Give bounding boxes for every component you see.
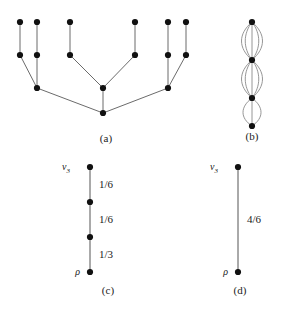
path-node-v3: [235, 164, 241, 170]
tree-node-leaf: [17, 19, 23, 25]
tree-node-leaf: [34, 19, 40, 25]
tree-node: [67, 52, 73, 58]
tree-node: [100, 85, 106, 91]
panel-b-multigraph: [212, 8, 292, 134]
caption-c: (c): [40, 284, 176, 296]
tree-node-leaf: [132, 19, 138, 25]
weighted-path-diagram-c: v3 ρ 1/6 1/6 1/3: [40, 155, 176, 285]
vertex-label-rho: ρ: [222, 266, 228, 277]
panel-a-tree: [0, 8, 212, 134]
tree-node: [165, 85, 171, 91]
tree-node: [17, 52, 23, 58]
multigraph-bundle-middle: [242, 60, 263, 98]
path-node-rho: [87, 269, 93, 275]
path-weight-labels-d: 4/6: [247, 213, 262, 225]
parallel-edge: [252, 22, 263, 60]
multigraph-node: [249, 123, 255, 129]
caption-d: (d): [188, 284, 292, 296]
tree-node: [34, 85, 40, 91]
path-weight-labels-c: 1/6 1/6 1/3: [99, 178, 114, 260]
path-node: [87, 234, 93, 240]
tree-edge: [20, 55, 37, 88]
edge-weight-label: 1/6: [99, 213, 114, 225]
parallel-edge: [252, 98, 261, 126]
tree-node-leaf: [67, 19, 73, 25]
vertex-label-v3: v3: [210, 161, 218, 175]
tree-edge: [37, 88, 103, 113]
path-vertex-labels-d: v3 ρ: [210, 161, 228, 277]
path-vertex-labels-c: v3 ρ: [62, 161, 80, 277]
edge-weight-label: 1/3: [99, 248, 114, 260]
vertex-label-rho: ρ: [74, 266, 80, 277]
tree-node-root: [100, 110, 106, 116]
tree-node: [34, 52, 40, 58]
parallel-edge: [252, 60, 263, 98]
tree-node-leaf: [165, 19, 171, 25]
tree-edges-a: [20, 22, 186, 113]
vertex-label-v3: v3: [62, 161, 70, 175]
parallel-edge: [242, 60, 253, 98]
edge-weight-label: 1/6: [99, 178, 114, 190]
tree-edge: [70, 55, 103, 88]
path-node-rho: [235, 269, 241, 275]
panel-d-weighted-path: v3 ρ 4/6: [188, 155, 292, 285]
multigraph-bundle-top: [242, 22, 263, 60]
multigraph-node: [249, 95, 255, 101]
caption-a: (a): [0, 132, 212, 144]
caption-b: (b): [212, 130, 292, 142]
tree-node: [165, 52, 171, 58]
panel-c-weighted-path: v3 ρ 1/6 1/6 1/3: [40, 155, 176, 285]
tree-edge: [103, 88, 168, 113]
multigraph-node: [249, 19, 255, 25]
parallel-edge: [243, 98, 252, 126]
multigraph-bundle-bottom: [243, 98, 261, 126]
tree-node: [132, 52, 138, 58]
weighted-path-diagram-d: v3 ρ 4/6: [188, 155, 292, 285]
edge-weight-label: 4/6: [247, 213, 262, 225]
tree-node-leaf: [183, 19, 189, 25]
path-node: [87, 199, 93, 205]
tree-edge: [103, 55, 135, 88]
parallel-edge: [242, 22, 253, 60]
figure-container: (a): [0, 0, 292, 311]
tree-diagram-a: [0, 8, 212, 134]
path-node-v3: [87, 164, 93, 170]
tree-edge: [168, 55, 186, 88]
multigraph-diagram-b: [212, 8, 292, 134]
tree-node: [183, 52, 189, 58]
multigraph-node: [249, 57, 255, 63]
